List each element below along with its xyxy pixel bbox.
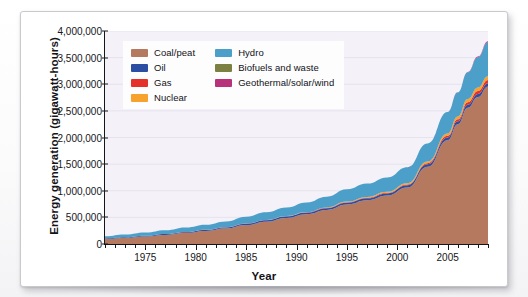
plot-wrapper: 0500,0001,000,0001,500,0002,000,0002,500…: [105, 31, 488, 244]
x-tick-mark-minor: [387, 244, 388, 248]
y-tick-mark: [102, 190, 108, 191]
x-tick-mark-minor: [236, 244, 237, 248]
x-tick-mark-minor: [478, 244, 479, 248]
legend-swatch-icon: [131, 64, 148, 72]
x-tick-mark-major: [297, 244, 298, 250]
legend-item-oil: Oil: [131, 62, 195, 73]
x-tick-mark-minor: [307, 244, 308, 248]
x-tick-mark-major: [397, 244, 398, 250]
x-tick-mark-minor: [216, 244, 217, 248]
x-tick-mark-minor: [327, 244, 328, 248]
legend-item-geothermal-solar-wind: Geothermal/solar/wind: [215, 77, 334, 88]
x-tick-mark-minor: [428, 244, 429, 248]
x-tick-mark-minor: [317, 244, 318, 248]
legend-swatch-icon: [215, 49, 232, 57]
x-tick-mark-minor: [186, 244, 187, 248]
legend-label: Gas: [154, 77, 172, 88]
x-tick-mark-minor: [135, 244, 136, 248]
x-tick-mark-minor: [115, 244, 116, 248]
y-tick-label: 500,000: [66, 212, 102, 223]
x-tick-mark-minor: [377, 244, 378, 248]
screenshot-root: Energy generation (gigawatt-hours) Year …: [0, 0, 528, 297]
legend-label: Hydro: [238, 47, 264, 58]
x-tick-mark-minor: [165, 244, 166, 248]
chart-card: Energy generation (gigawatt-hours) Year …: [20, 11, 508, 287]
y-tick-mark: [102, 84, 108, 85]
x-tick-label: 1985: [235, 252, 257, 263]
legend-item-nuclear: Nuclear: [131, 92, 195, 103]
legend-label: Nuclear: [154, 92, 187, 103]
x-tick-mark-minor: [438, 244, 439, 248]
legend-label: Geothermal/solar/wind: [238, 77, 334, 88]
legend-label: Biofuels and waste: [238, 62, 319, 73]
y-tick-label: 2,500,000: [58, 105, 103, 116]
x-tick-mark-minor: [367, 244, 368, 248]
x-tick-mark-major: [145, 244, 146, 250]
legend-label: Oil: [154, 62, 166, 73]
x-tick-mark-minor: [155, 244, 156, 248]
x-tick-mark-minor: [488, 244, 489, 248]
x-tick-label: 2000: [386, 252, 408, 263]
x-tick-label: 2005: [437, 252, 459, 263]
legend-swatch-icon: [131, 94, 148, 102]
y-tick-label: 2,000,000: [58, 132, 103, 143]
x-tick-mark-minor: [337, 244, 338, 248]
x-tick-mark-minor: [125, 244, 126, 248]
x-tick-mark-minor: [206, 244, 207, 248]
legend-column-1: Coal/peatOilGasNuclear: [131, 47, 195, 103]
x-tick-mark-minor: [266, 244, 267, 248]
legend-swatch-icon: [215, 79, 232, 87]
legend-item-gas: Gas: [131, 77, 195, 88]
x-tick-mark-minor: [276, 244, 277, 248]
x-tick-label: 1995: [336, 252, 358, 263]
x-tick-mark-minor: [468, 244, 469, 248]
y-tick-mark: [102, 31, 108, 32]
legend-item-coal-peat: Coal/peat: [131, 47, 195, 58]
legend-column-2: HydroBiofuels and wasteGeothermal/solar/…: [215, 47, 334, 103]
x-tick-mark-major: [448, 244, 449, 250]
y-tick-label: 3,000,000: [58, 79, 103, 90]
y-tick-label: 4,000,000: [58, 26, 103, 37]
y-tick-label: 3,500,000: [58, 52, 103, 63]
y-tick-label: 1,500,000: [58, 159, 103, 170]
x-tick-mark-minor: [226, 244, 227, 248]
x-tick-mark-major: [196, 244, 197, 250]
x-tick-mark-minor: [176, 244, 177, 248]
x-tick-mark-major: [347, 244, 348, 250]
x-tick-mark-minor: [286, 244, 287, 248]
x-tick-mark-minor: [105, 244, 106, 248]
x-tick-mark-major: [246, 244, 247, 250]
legend-swatch-icon: [215, 64, 232, 72]
x-tick-label: 1980: [185, 252, 207, 263]
x-tick-mark-minor: [407, 244, 408, 248]
chart-legend: Coal/peatOilGasNuclearHydroBiofuels and …: [123, 41, 344, 109]
y-tick-mark: [102, 164, 108, 165]
x-tick-label: 1990: [285, 252, 307, 263]
y-tick-mark: [102, 110, 108, 111]
legend-item-biofuels-and-waste: Biofuels and waste: [215, 62, 334, 73]
x-tick-mark-minor: [256, 244, 257, 248]
x-tick-mark-minor: [458, 244, 459, 248]
y-tick-mark: [102, 217, 108, 218]
legend-item-hydro: Hydro: [215, 47, 334, 58]
x-tick-mark-minor: [417, 244, 418, 248]
x-tick-mark-minor: [357, 244, 358, 248]
legend-swatch-icon: [131, 49, 148, 57]
x-tick-label: 1975: [134, 252, 156, 263]
legend-swatch-icon: [131, 79, 148, 87]
y-tick-mark: [102, 137, 108, 138]
legend-label: Coal/peat: [154, 47, 195, 58]
x-axis-title: Year: [21, 270, 507, 282]
y-tick-label: 1,000,000: [58, 185, 103, 196]
y-tick-mark: [102, 57, 108, 58]
